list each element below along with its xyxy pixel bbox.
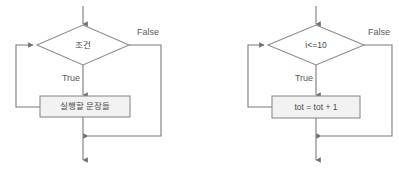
decision-label-right: i<=10 [305,40,327,50]
flowchart-diagram: 조건 실행할 문장들 True False i<=10 tot = tot + … [0,0,399,169]
flowchart-left: 조건 실행할 문장들 True False [16,6,161,160]
decision-label-left: 조건 [75,40,91,50]
false-label-left: False [137,27,159,37]
loopback-path-left [16,45,40,107]
false-label-right: False [368,27,390,37]
flowchart-right: i<=10 tot = tot + 1 True False [248,6,392,160]
process-label-left: 실행할 문장들 [60,101,110,111]
loopback-path-right [248,45,272,107]
true-label-left: True [62,73,80,83]
process-label-right: tot = tot + 1 [294,102,337,112]
true-label-right: True [295,73,313,83]
flowchart-canvas: 조건 실행할 문장들 True False i<=10 tot = tot + … [0,0,399,169]
